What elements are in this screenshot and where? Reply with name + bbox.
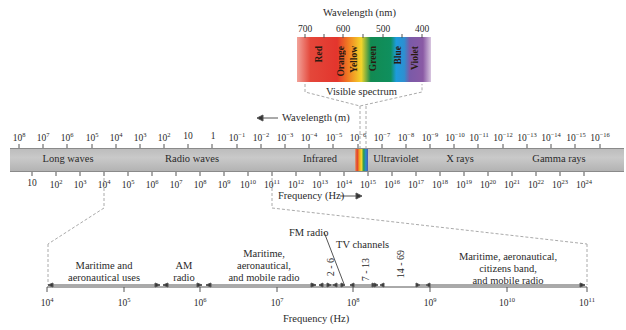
tick-label: 107 <box>271 296 284 308</box>
tick-label: 1018 <box>432 178 448 190</box>
visible-band-marker <box>355 149 368 171</box>
tick-label: 10−16 <box>590 131 610 143</box>
tv-channels-label: TV channels <box>336 240 389 251</box>
tick-label: 105 <box>86 131 99 143</box>
tick-label: 1020 <box>480 178 496 190</box>
tick-label: 109 <box>218 178 231 190</box>
tick-label: 10−10 <box>445 131 465 143</box>
tick-label: 106 <box>61 131 74 143</box>
tick-label: 104 <box>41 296 54 308</box>
fm-radio-label: FM radio <box>289 228 328 239</box>
band-line: radio <box>173 272 195 284</box>
tick-label: 10−14 <box>541 131 561 143</box>
tick-label: 1010 <box>240 178 256 190</box>
band-maritime-mobile: Maritime, aeronautical, and mobile radio <box>228 248 299 284</box>
band-line: aeronautical uses <box>68 272 140 284</box>
tick-label: 10−6 <box>350 131 366 143</box>
tick-label: 10−9 <box>422 131 438 143</box>
tick-label: 1017 <box>408 178 424 190</box>
band-line: AM <box>173 260 195 272</box>
region-long-waves: Long waves <box>42 153 93 164</box>
tick-label: 10−15 <box>566 131 586 143</box>
tick-label: 106 <box>194 296 207 308</box>
tick-label: 108 <box>194 178 207 190</box>
band-line: and mobile radio <box>228 272 299 284</box>
radio-frequency-axis-label: Frequency (Hz) <box>283 314 349 325</box>
tick-label: 1011 <box>264 178 280 190</box>
tick-label: 109 <box>424 296 437 308</box>
tv-range-2-6: 2 - 6 <box>325 258 336 276</box>
tick-label: 10−8 <box>398 131 414 143</box>
tick-label: 10 <box>27 178 37 188</box>
tick-label: 10−13 <box>517 131 537 143</box>
band-line: aeronautical, <box>228 260 299 272</box>
tv-range-14-69: 14 - 69 <box>395 250 406 278</box>
tick-label: 104 <box>110 131 123 143</box>
band-line: Maritime, aeronautical, <box>459 251 557 263</box>
tick-label: 107 <box>170 178 183 190</box>
tick-label: 102 <box>158 131 171 143</box>
region-gamma-rays: Gamma rays <box>532 153 585 164</box>
region-x-rays: X rays <box>446 153 474 164</box>
region-radio-waves: Radio waves <box>165 153 219 164</box>
tv-range-7-13: 7 - 13 <box>360 258 371 281</box>
tick-label: 1 <box>211 131 216 141</box>
band-maritime-citizens: Maritime, aeronautical, citizens band, a… <box>459 251 557 287</box>
frequency-axis-label: Frequency (Hz) <box>278 191 344 202</box>
tick-label: 1016 <box>384 178 400 190</box>
band-line: and mobile radio <box>459 275 557 287</box>
tick-label: 10−5 <box>326 131 342 143</box>
wavelength-axis-label: Wavelength (m) <box>282 113 350 124</box>
tick-label: 104 <box>98 178 111 190</box>
tick-label: 1022 <box>528 178 544 190</box>
tick-label: 10−7 <box>374 131 390 143</box>
tick-label: 103 <box>134 131 147 143</box>
tick-label: 10−12 <box>493 131 513 143</box>
tick-label: 108 <box>347 296 360 308</box>
tick-label: 10−2 <box>253 131 269 143</box>
tick-label: 1012 <box>288 178 304 190</box>
band-line: Maritime and <box>68 260 140 272</box>
tick-label: 106 <box>146 178 159 190</box>
tick-label: 10−1 <box>229 131 245 143</box>
tick-label: 10−3 <box>277 131 293 143</box>
tick-label: 1013 <box>312 178 328 190</box>
band-line: Maritime, <box>228 248 299 260</box>
tick-label: 1019 <box>456 178 472 190</box>
region-ultraviolet: Ultraviolet <box>373 153 419 164</box>
tick-label: 1023 <box>552 178 568 190</box>
tick-label: 102 <box>50 178 63 190</box>
tick-label: 107 <box>37 131 50 143</box>
tick-label: 10−4 <box>301 131 317 143</box>
tick-label: 1010 <box>499 296 515 308</box>
band-am-radio: AM radio <box>173 260 195 284</box>
region-infrared: Infrared <box>303 153 337 164</box>
tick-label: 1014 <box>336 178 352 190</box>
tick-label: 10 <box>183 131 193 141</box>
tick-label: 10−11 <box>469 131 488 143</box>
tick-label: 103 <box>74 178 87 190</box>
band-maritime-aeronautical: Maritime and aeronautical uses <box>68 260 140 284</box>
tick-label: 1021 <box>504 178 520 190</box>
tick-label: 1024 <box>576 178 592 190</box>
tick-label: 1011 <box>579 296 595 308</box>
tick-label: 1015 <box>360 178 376 190</box>
tick-label: 105 <box>118 296 131 308</box>
tick-label: 105 <box>122 178 135 190</box>
band-line: citizens band, <box>459 263 557 275</box>
tick-label: 108 <box>13 131 26 143</box>
